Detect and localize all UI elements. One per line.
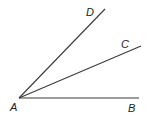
angle-diagram: A B C D bbox=[0, 0, 156, 118]
vertex-label-a: A bbox=[9, 101, 17, 113]
ray-ac bbox=[19, 46, 141, 98]
point-label-c: C bbox=[121, 38, 129, 50]
point-label-d: D bbox=[86, 6, 94, 18]
ray-ad bbox=[19, 9, 105, 98]
point-label-b: B bbox=[128, 102, 135, 114]
